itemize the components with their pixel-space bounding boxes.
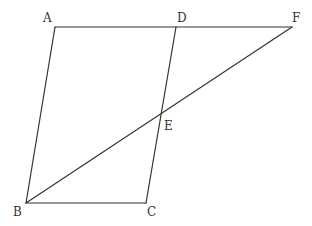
point-labels: A B C D E F bbox=[13, 11, 300, 219]
segment-a-b bbox=[26, 27, 55, 203]
label-a: A bbox=[42, 11, 52, 25]
label-b: B bbox=[13, 205, 22, 219]
segment-b-f bbox=[26, 27, 292, 203]
segment-c-d bbox=[146, 27, 176, 203]
label-d: D bbox=[177, 11, 187, 25]
label-f: F bbox=[292, 11, 300, 25]
segments bbox=[26, 27, 292, 203]
label-e: E bbox=[164, 119, 173, 133]
label-c: C bbox=[147, 205, 156, 219]
geometry-diagram: A B C D E F bbox=[0, 0, 312, 226]
